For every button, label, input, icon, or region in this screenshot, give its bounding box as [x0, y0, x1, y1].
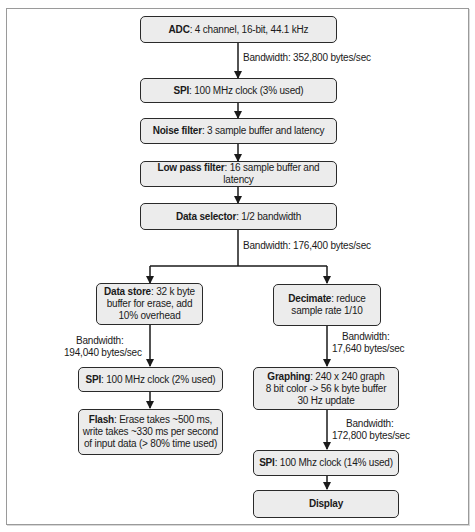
graphing-desc: : 240 x 240 graph: [310, 371, 384, 382]
spi-node-right: SPI: 100 Mhz clock (14% used): [253, 450, 399, 476]
spi-node-left: SPI: 100 MHz clock (2% used): [78, 367, 223, 392]
display-title: Display: [309, 498, 343, 509]
flash-line3: of input data (> 80% time used): [84, 438, 217, 449]
low-pass-filter-node: Low pass filter: 16 sample buffer and la…: [140, 161, 337, 187]
data-store-title: Data store: [104, 286, 151, 297]
spi-left-desc: : 100 MHz clock (2% used): [101, 374, 216, 385]
bandwidth-label-selector: Bandwidth: 176,400 bytes/sec: [243, 240, 371, 252]
low-pass-filter-title: Low pass filter: [158, 162, 225, 173]
data-store-desc: : 32 k byte: [151, 286, 195, 297]
noise-filter-desc: : 3 sample buffer and latency: [202, 125, 324, 136]
flash-desc: : Erase takes ~500 ms,: [114, 414, 212, 425]
graphing-line2: 8 bit color -> 56 k byte buffer: [266, 383, 387, 394]
decimate-node: Decimate: reduce sample rate 1/10: [273, 284, 381, 326]
data-store-node: Data store: 32 k byte buffer for erase, …: [96, 283, 203, 325]
graphing-line3: 30 Hz update: [297, 395, 354, 406]
data-store-line3: 10% overhead: [118, 310, 180, 321]
data-selector-node: Data selector: 1/2 bandwidth: [140, 203, 337, 230]
adc-title: ADC: [169, 24, 190, 35]
display-node: Display: [253, 490, 399, 518]
bandwidth-label-decimate: Bandwidth: 17,640 bytes/sec: [332, 331, 404, 355]
decimate-desc: : reduce: [331, 293, 366, 304]
data-selector-desc: : 1/2 bandwidth: [236, 211, 301, 222]
bandwidth-label-graphing-1: Bandwidth:: [332, 418, 410, 430]
flash-line2: write takes ~330 ms per second: [83, 426, 218, 437]
data-store-line2: buffer for erase, add: [107, 298, 193, 309]
spi-right-title: SPI: [259, 457, 275, 468]
graphing-node: Graphing: 240 x 240 graph 8 bit color ->…: [253, 367, 399, 410]
spi-left-title: SPI: [85, 374, 101, 385]
decimate-line2: sample rate 1/10: [291, 305, 362, 316]
adc-desc: : 4 channel, 16-bit, 44.1 kHz: [190, 24, 309, 35]
spi-main-desc: : 100 MHz clock (3% used): [189, 85, 304, 96]
bandwidth-label-decimate-1: Bandwidth:: [332, 331, 404, 343]
bandwidth-label-datastore-1: Bandwidth:: [64, 335, 150, 347]
bandwidth-label-datastore-2: 194,040 bytes/sec: [64, 347, 150, 359]
bandwidth-label-graphing: Bandwidth: 172,800 bytes/sec: [332, 418, 410, 442]
adc-node: ADC: 4 channel, 16-bit, 44.1 kHz: [140, 16, 337, 43]
bandwidth-label-datastore: Bandwidth: 194,040 bytes/sec: [64, 335, 150, 359]
flash-node: Flash: Erase takes ~500 ms, write takes …: [78, 409, 223, 455]
spi-main-title: SPI: [173, 85, 189, 96]
flash-title: Flash: [89, 414, 114, 425]
noise-filter-title: Noise filter: [153, 125, 202, 136]
decimate-title: Decimate: [288, 293, 331, 304]
low-pass-filter-desc: : 16 sample buffer and latency: [223, 162, 319, 185]
spi-node-main: SPI: 100 MHz clock (3% used): [140, 78, 337, 103]
graphing-title: Graphing: [267, 371, 310, 382]
bandwidth-label-adc: Bandwidth: 352,800 bytes/sec: [243, 52, 371, 64]
data-selector-title: Data selector: [176, 211, 236, 222]
bandwidth-label-decimate-2: 17,640 bytes/sec: [332, 343, 404, 355]
bandwidth-label-graphing-2: 172,800 bytes/sec: [332, 430, 410, 442]
spi-right-desc: : 100 Mhz clock (14% used): [275, 457, 393, 468]
noise-filter-node: Noise filter: 3 sample buffer and latenc…: [140, 118, 337, 144]
